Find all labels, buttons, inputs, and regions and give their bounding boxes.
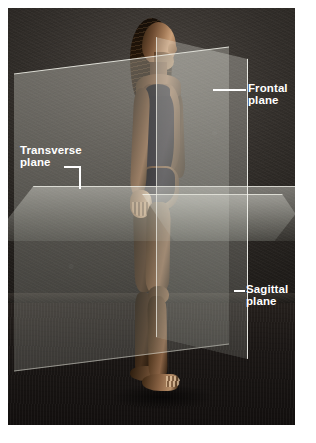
near-shin (147, 296, 167, 380)
near-thigh (145, 202, 171, 294)
sagittal-plane-label-line1: Sagittal (246, 283, 288, 295)
transverse-plane-label-line2: plane (20, 156, 82, 168)
frontal-plane-label: Frontal plane (248, 82, 288, 107)
frontal-plane-label-line2: plane (248, 94, 288, 106)
frontal-plane-label-line1: Frontal (248, 82, 288, 94)
swimsuit-strap (146, 84, 170, 96)
sagittal-plane-label: Sagittal plane (246, 283, 288, 308)
figure-photograph: Frontal plane Transverse plane Sagittal … (8, 8, 295, 425)
transverse-plane-label: Transverse plane (20, 144, 82, 169)
near-toes (166, 376, 180, 387)
human-figure (94, 18, 212, 425)
anatomical-planes-figure: Frontal plane Transverse plane Sagittal … (0, 0, 316, 443)
nose (168, 44, 177, 53)
frontal-plane-leader-line (213, 89, 246, 91)
transverse-plane-leader-line-vertical (79, 166, 81, 189)
sagittal-plane-label-line2: plane (246, 295, 288, 307)
transverse-plane-label-line1: Transverse (20, 144, 82, 156)
sagittal-plane-leader-line (234, 290, 245, 292)
